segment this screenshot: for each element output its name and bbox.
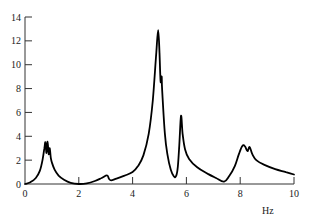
y-tick-label: 6 <box>16 107 21 118</box>
y-axis-ticks: 02468101214 <box>11 12 32 190</box>
x-axis-label: Hz <box>262 205 274 216</box>
x-tick-label: 0 <box>23 188 28 199</box>
spectrum-curve <box>25 30 294 184</box>
x-tick-label: 10 <box>289 188 299 199</box>
y-tick-label: 8 <box>16 83 21 94</box>
y-tick-label: 12 <box>11 35 21 46</box>
x-tick-label: 8 <box>238 188 243 199</box>
y-tick-label: 4 <box>16 131 21 142</box>
frequency-spectrum-chart: 02468101214 0246810 Hz <box>0 0 310 224</box>
y-tick-label: 2 <box>16 155 21 166</box>
x-tick-label: 2 <box>76 188 81 199</box>
y-tick-label: 10 <box>11 59 21 70</box>
x-tick-label: 4 <box>130 188 135 199</box>
x-tick-label: 6 <box>184 188 189 199</box>
y-tick-label: 14 <box>11 12 21 23</box>
y-tick-label: 0 <box>16 179 21 190</box>
